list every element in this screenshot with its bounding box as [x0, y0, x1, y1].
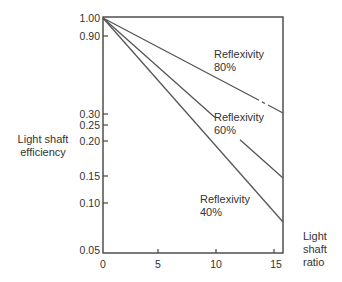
- y-tick-label: 1.00: [64, 12, 100, 24]
- y-axis-label: Light shaft efficiency: [10, 133, 76, 159]
- x-axis-label: Light shaft ratio: [303, 230, 327, 269]
- x-tick-label: 5: [148, 258, 168, 270]
- y-tick-label: 0.25: [64, 119, 100, 131]
- annotation-line2: 60%: [214, 124, 264, 137]
- annotation-line1: Reflexivity: [214, 111, 264, 124]
- x-axis-label-line1: Light: [303, 230, 327, 243]
- x-tick-label: 15: [266, 258, 286, 270]
- x-tick-label: 10: [206, 258, 226, 270]
- x-tick-label: 0: [93, 258, 113, 270]
- y-tick-label: 0.05: [64, 244, 100, 256]
- x-axis-label-line2: shaft: [303, 243, 327, 256]
- annotation-line1: Reflexivity: [214, 48, 264, 61]
- annotation-line2: 40%: [200, 206, 250, 219]
- y-tick-label: 0.90: [64, 30, 100, 42]
- annotation-line1: Reflexivity: [200, 193, 250, 206]
- annotation-reflexivity-60: Reflexivity 60%: [214, 111, 264, 137]
- annotation-line2: 80%: [214, 61, 264, 74]
- annotation-reflexivity-80: Reflexivity 80%: [214, 48, 264, 74]
- y-tick-label: 0.15: [64, 170, 100, 182]
- y-axis-label-line2: efficiency: [10, 146, 76, 159]
- y-axis-label-line1: Light shaft: [10, 133, 76, 146]
- annotation-reflexivity-40: Reflexivity 40%: [200, 193, 250, 219]
- x-axis-label-line3: ratio: [303, 256, 327, 269]
- y-tick-label: 0.10: [64, 197, 100, 209]
- y-axis-ticks: [103, 36, 108, 203]
